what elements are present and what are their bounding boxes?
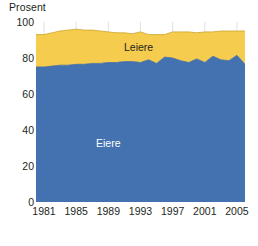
stacked-area-chart: Prosent 020406080100 Leiere Eiere 198119… bbox=[0, 0, 258, 246]
y-axis-tick-60: 60 bbox=[0, 89, 34, 100]
x-axis-tick-1989: 1989 bbox=[97, 206, 120, 217]
series-label-eiere: Eiere bbox=[96, 138, 121, 149]
y-axis-tick-20: 20 bbox=[0, 161, 34, 172]
area-series-eiere bbox=[36, 55, 245, 202]
x-axis-tick-1997: 1997 bbox=[161, 206, 184, 217]
x-axis-tick-1981: 1981 bbox=[32, 206, 55, 217]
x-axis-tick-1993: 1993 bbox=[129, 206, 152, 217]
x-axis-tick-2001: 2001 bbox=[193, 206, 216, 217]
series-label-leiere: Leiere bbox=[124, 42, 153, 53]
y-axis-tick-80: 80 bbox=[0, 53, 34, 64]
y-axis-tick-100: 100 bbox=[0, 17, 34, 28]
y-axis-tick-40: 40 bbox=[0, 125, 34, 136]
x-axis-tick-labels: 1981198519891993199720012005 bbox=[0, 206, 258, 228]
x-axis-tick-2005: 2005 bbox=[225, 206, 248, 217]
x-axis-tick-1985: 1985 bbox=[65, 206, 88, 217]
